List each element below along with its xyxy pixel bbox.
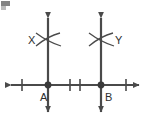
geometry-figure: A B X Y xyxy=(0,0,150,129)
corner-scan-artifact-tail xyxy=(1,6,6,10)
point-b xyxy=(98,82,105,89)
geometry-diagram-canvas: A B X Y xyxy=(0,0,150,129)
arc-label-y: Y xyxy=(115,34,123,46)
arc-label-x: X xyxy=(28,34,36,46)
point-a xyxy=(45,82,52,89)
corner-scan-artifact xyxy=(1,1,10,6)
point-b-label: B xyxy=(105,91,112,103)
point-a-label: A xyxy=(40,91,48,103)
